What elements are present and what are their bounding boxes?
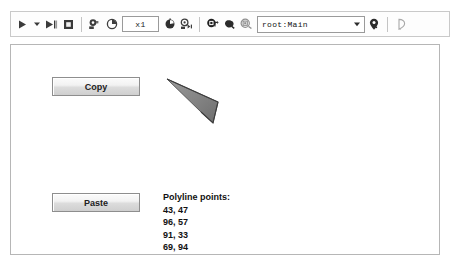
pin-target-button[interactable] [365, 15, 382, 34]
blob-dark-icon [223, 18, 236, 30]
point-row: 91, 33 [163, 229, 230, 242]
chevron-down-icon [353, 20, 361, 28]
application-stage: Copy Paste Polyline points: 43, 47 96, 5… [10, 44, 440, 255]
play-button[interactable] [14, 15, 31, 34]
chevron-down-icon [33, 20, 41, 28]
target-scope-chevron[interactable] [350, 17, 364, 32]
step-forward-icon [45, 19, 58, 30]
outline-mode-button[interactable] [393, 15, 410, 34]
play-icon [17, 19, 28, 30]
snapshot-button[interactable] [238, 15, 255, 34]
target-scope-value: root:Main [258, 20, 350, 29]
points-panel-title: Polyline points: [163, 191, 230, 204]
copy-button-label: Copy [85, 82, 108, 92]
stop-icon [63, 19, 74, 30]
clock-dark-icon [164, 18, 176, 30]
play-dropdown-button[interactable] [31, 15, 43, 34]
paste-button[interactable]: Paste [52, 193, 140, 212]
toolbar-separator-3 [387, 17, 388, 32]
snapshot-icon [240, 18, 253, 30]
object-inspect-button[interactable] [221, 15, 238, 34]
clock-pie-icon [106, 18, 118, 30]
step-forward-button[interactable] [43, 15, 60, 34]
redraw-regions-icon [206, 18, 219, 30]
paste-button-label: Paste [84, 198, 108, 208]
step-over-button[interactable] [86, 15, 103, 34]
fast-forward-button[interactable] [178, 15, 195, 34]
toolbar-separator-2 [199, 17, 200, 32]
fast-forward-icon [180, 18, 193, 30]
pin-icon [368, 18, 380, 31]
step-over-icon [88, 18, 101, 30]
toolbar-separator-1 [81, 17, 82, 32]
playback-speed-input[interactable]: x1 [122, 16, 159, 32]
target-scope-combo[interactable]: root:Main [257, 16, 365, 33]
debug-toolbar: x1 [10, 11, 450, 37]
point-row: 96, 57 [163, 216, 230, 229]
polyline-wedge-shape [161, 71, 251, 143]
outline-pin-icon [396, 18, 407, 31]
point-row: 69, 94 [163, 241, 230, 254]
copy-button[interactable]: Copy [52, 77, 140, 96]
show-redraw-regions-button[interactable] [204, 15, 221, 34]
polyline-points-panel: Polyline points: 43, 47 96, 57 91, 33 69… [163, 191, 230, 254]
stop-button[interactable] [60, 15, 77, 34]
point-row: 43, 47 [163, 204, 230, 217]
timer-toggle-button[interactable] [161, 15, 178, 34]
pause-clock-button[interactable] [103, 15, 120, 34]
